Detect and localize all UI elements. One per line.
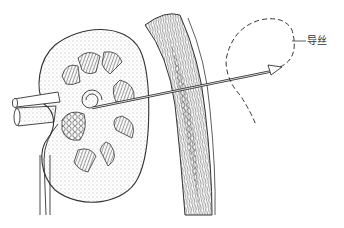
illustration-canvas xyxy=(0,0,344,228)
guidewire-label: 导丝 xyxy=(307,36,327,46)
kidney xyxy=(13,29,149,215)
kidney-guidewire-illustration: 导丝 xyxy=(0,0,344,228)
body-wall xyxy=(145,14,215,215)
